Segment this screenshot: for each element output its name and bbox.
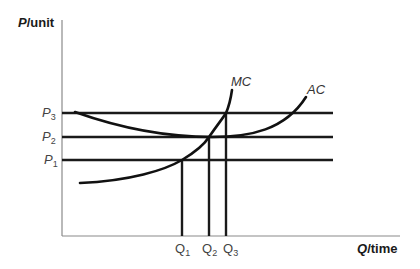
price-label-p2: P2	[42, 129, 56, 146]
cost-curve-diagram: P/unit Q/time MC AC P3 P2 P1 Q1 Q2 Q3	[0, 0, 420, 269]
y-axis-title: P/unit	[18, 15, 55, 30]
quantity-label-q1: Q1	[175, 241, 190, 258]
price-label-p3: P3	[42, 105, 56, 122]
ac-curve	[75, 97, 306, 137]
x-axis-title: Q/time	[357, 241, 397, 256]
price-label-p1: P1	[44, 152, 58, 169]
quantity-label-q3: Q3	[223, 241, 238, 258]
quantity-label-q2: Q2	[202, 241, 217, 258]
ac-label: AC	[306, 82, 326, 97]
mc-label: MC	[231, 74, 252, 89]
